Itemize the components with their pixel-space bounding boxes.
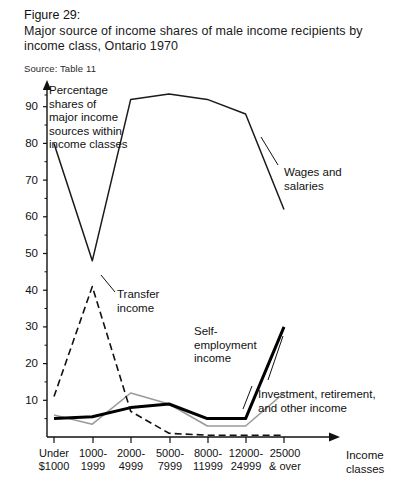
x-axis-title: Income classes bbox=[346, 449, 406, 476]
y-tick-label-90: 90 bbox=[12, 100, 38, 112]
x-tick-marks bbox=[54, 437, 284, 443]
leader-line-wages bbox=[261, 137, 278, 165]
series-label-self-employment-line-3: income bbox=[194, 352, 274, 366]
x-tick-label-25000-and-over-line-2: & over bbox=[256, 460, 314, 473]
x-axis bbox=[47, 433, 340, 442]
x-tick-label-25000-and-over: 25000 & over bbox=[256, 447, 314, 473]
y-axis-title-line-1: Percentage bbox=[49, 84, 145, 98]
figure-page: Figure 29: Major source of income shares… bbox=[0, 0, 408, 499]
y-tick-label-40: 40 bbox=[12, 284, 38, 296]
series-label-self-employment-line-1: Self- bbox=[194, 325, 274, 339]
y-tick-label-70: 70 bbox=[12, 174, 38, 186]
series-label-self-employment: Self- employment income bbox=[194, 325, 274, 366]
chart-svg bbox=[0, 0, 408, 499]
y-tick-label-80: 80 bbox=[12, 137, 38, 149]
x-axis-title-line-1: Income bbox=[346, 449, 406, 463]
series-label-investment-line-1: Investment, retirement, bbox=[258, 388, 408, 402]
y-axis-title-line-4: sources within bbox=[49, 125, 145, 139]
series-label-investment: Investment, retirement, and other income bbox=[258, 388, 408, 415]
y-tick-label-60: 60 bbox=[12, 210, 38, 222]
series-label-transfer-line-2: income bbox=[117, 302, 197, 316]
y-tick-label-10: 10 bbox=[12, 394, 38, 406]
series-label-wages-line-2: salaries bbox=[284, 180, 354, 194]
series-label-investment-line-2: and other income bbox=[258, 402, 408, 416]
y-tick-label-50: 50 bbox=[12, 247, 38, 259]
x-axis-title-line-2: classes bbox=[346, 463, 406, 477]
y-axis-title-line-3: major income bbox=[49, 111, 145, 125]
chart-plot-area: Percentage shares of major income source… bbox=[0, 0, 408, 499]
y-tick-label-20: 20 bbox=[12, 357, 38, 369]
y-axis-title-line-5: income classes bbox=[49, 138, 145, 152]
series-label-transfer-line-1: Transfer bbox=[117, 288, 197, 302]
series-label-wages: Wages and salaries bbox=[284, 166, 354, 193]
y-tick-label-30: 30 bbox=[12, 320, 38, 332]
series-label-transfer: Transfer income bbox=[117, 288, 197, 315]
series-label-wages-line-1: Wages and bbox=[284, 166, 354, 180]
leader-line-transfer bbox=[101, 275, 115, 292]
y-axis-title-line-2: shares of bbox=[49, 98, 145, 112]
x-tick-label-25000-and-over-line-1: 25000 bbox=[256, 447, 314, 460]
y-axis-title: Percentage shares of major income source… bbox=[49, 84, 145, 152]
series-label-self-employment-line-2: employment bbox=[194, 339, 274, 353]
x-axis-arrow bbox=[329, 433, 340, 442]
